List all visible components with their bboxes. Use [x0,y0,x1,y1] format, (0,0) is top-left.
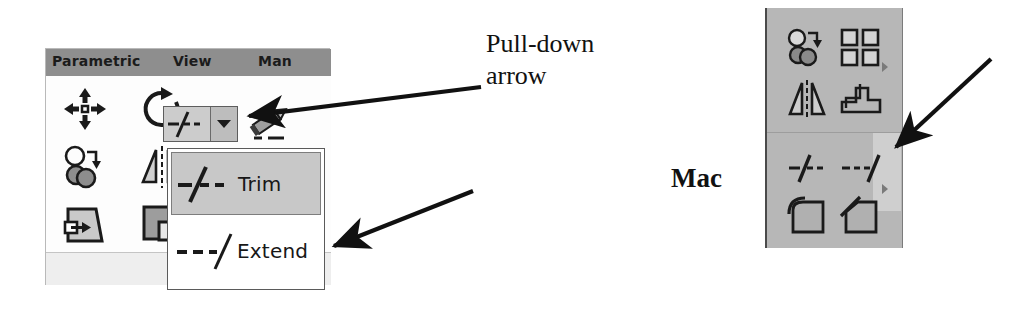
chamfer-icon[interactable] [838,194,884,238]
trim-icon[interactable] [785,148,831,192]
mac-tool-palette [765,8,903,248]
fillet-icon[interactable] [785,194,831,238]
copy-icon[interactable] [62,144,108,190]
dropdown-item-label: Trim [238,172,281,196]
move-icon[interactable] [62,86,108,132]
mirror-icon[interactable] [785,78,831,122]
extend-icon[interactable] [838,148,884,192]
trim-button[interactable] [164,107,211,141]
copy-icon[interactable] [785,26,831,70]
scale-icon[interactable] [62,202,108,248]
more-triangle-icon[interactable] [882,62,888,72]
mac-label: Mac [671,163,722,194]
more-triangle-icon[interactable] [882,184,888,194]
arrow-to-mac-trim-row [896,59,991,147]
callout-line-2: arrow [486,60,656,92]
menu-item-view[interactable]: View [173,53,212,69]
callout-line-1: Pull-down [486,28,656,60]
trim-extend-dropdown-menu: Trim Extend [167,148,325,290]
dropdown-item-trim[interactable]: Trim [171,152,321,215]
trim-split-button[interactable] [163,106,238,142]
dropdown-item-label: Extend [237,239,308,263]
pull-down-arrow-button[interactable] [211,107,237,141]
dropdown-item-extend[interactable]: Extend [171,219,321,282]
extend-icon [171,229,237,273]
menu-bar: Parametric View Man [46,49,331,76]
arrow-to-extend-item [334,191,473,246]
callout-pull-down-arrow: Pull-down arrow [486,28,656,91]
menu-item-parametric[interactable]: Parametric [52,53,140,69]
trim-icon [172,162,238,206]
menu-item-manage[interactable]: Man [258,53,292,69]
trim-icon [164,107,210,141]
pencil-icon[interactable] [248,100,294,142]
offset-icon[interactable] [838,78,884,122]
pattern-icon[interactable] [838,26,884,70]
chevron-down-icon [217,120,231,128]
